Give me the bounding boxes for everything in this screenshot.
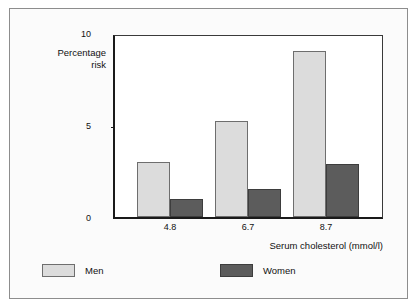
y-axis-title-line1: Percentage [57, 47, 106, 58]
legend-swatch-women-icon [220, 264, 253, 277]
bar-men-2[interactable] [215, 121, 248, 217]
bar-women-2[interactable] [248, 189, 281, 217]
legend-swatch-men-icon [42, 264, 75, 277]
legend-label-men: Men [85, 265, 103, 276]
legend: Men Women [24, 263, 395, 283]
bar-women-3[interactable] [326, 164, 359, 217]
bar-men-1[interactable] [137, 162, 170, 217]
bar-group-1 [137, 33, 207, 217]
x-tick-label-1: 4.8 [145, 223, 195, 232]
y-tick-label-10: 10 [65, 30, 91, 39]
legend-label-women: Women [263, 265, 296, 276]
y-axis-title-line2: risk [91, 59, 106, 70]
x-tick-label-2: 6.7 [223, 223, 273, 232]
bar-group-3 [293, 33, 363, 217]
y-axis-title: Percentage risk [24, 47, 106, 71]
bar-men-3[interactable] [293, 51, 326, 217]
x-axis-title: Serum cholesterol (mmol/l) [213, 240, 383, 251]
bar-group-2 [215, 33, 285, 217]
plot-area [113, 35, 383, 219]
bar-women-1[interactable] [170, 199, 203, 217]
y-tick-label-0: 0 [65, 214, 91, 223]
y-tick-label-5: 5 [65, 122, 91, 131]
figure-panel: Percentage risk 10 5 0 4.8 6.7 8.7 Serum… [9, 8, 408, 299]
x-tick-label-3: 8.7 [301, 223, 351, 232]
